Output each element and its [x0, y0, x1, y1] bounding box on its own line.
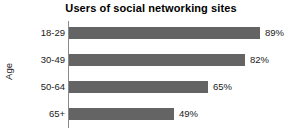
value-label-18-29: 89%	[265, 26, 284, 39]
bar-row: 30-49 82%	[0, 54, 302, 66]
plot-area: 18-29 89% 30-49 82% 50-64 65% 65+ 49%	[0, 21, 302, 128]
chart-title: Users of social networking sites	[0, 2, 302, 14]
category-label-65-plus: 65+	[5, 107, 65, 120]
bar-row: 50-64 65%	[0, 81, 302, 93]
bar-50-64	[69, 81, 208, 93]
category-label-30-49: 30-49	[5, 53, 65, 66]
value-label-30-49: 82%	[250, 53, 269, 66]
bar-chart: Users of social networking sites Age 18-…	[0, 0, 302, 134]
bar-row: 65+ 49%	[0, 108, 302, 120]
bar-row: 18-29 89%	[0, 27, 302, 39]
category-label-50-64: 50-64	[5, 80, 65, 93]
value-label-65-plus: 49%	[179, 107, 198, 120]
bar-18-29	[69, 27, 260, 39]
value-label-50-64: 65%	[213, 80, 232, 93]
bar-30-49	[69, 54, 245, 66]
category-label-18-29: 18-29	[5, 26, 65, 39]
bar-65-plus	[69, 108, 174, 120]
